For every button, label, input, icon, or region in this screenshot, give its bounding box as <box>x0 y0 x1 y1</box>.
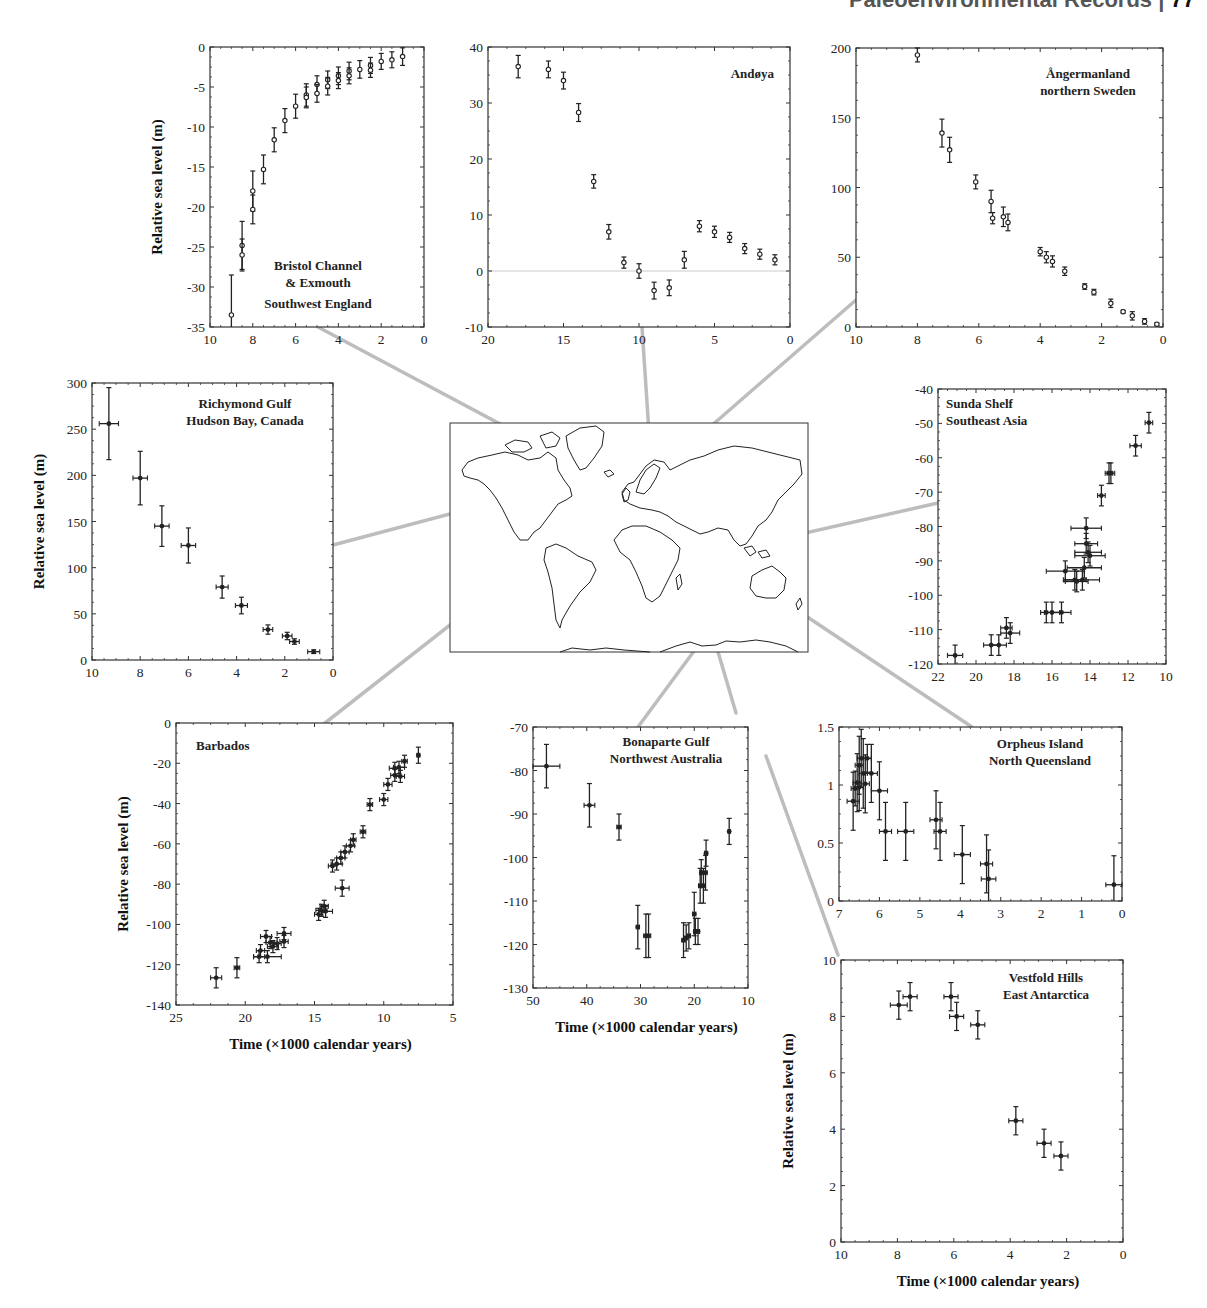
y-tick-label: -110 <box>504 894 528 909</box>
plot-frame <box>841 960 1123 1242</box>
y-tick-label: 0 <box>844 320 851 335</box>
x-tick-label: 4 <box>233 665 240 680</box>
y-tick-label: 50 <box>838 250 852 265</box>
y-tick-label: -90 <box>915 554 933 569</box>
x-axis-title: Time (×1000 calendar years) <box>229 1036 412 1053</box>
x-tick-label: 12 <box>1121 669 1135 684</box>
y-tick-label: -15 <box>187 160 205 175</box>
x-tick-label: 10 <box>377 1010 391 1025</box>
chart-andoya: 20151050403020100-10Andøya <box>465 40 794 347</box>
plot-frame <box>488 47 790 327</box>
y-tick-label: 10 <box>823 953 837 968</box>
y-tick-label: 150 <box>67 515 88 530</box>
y-tick-label: 0 <box>827 894 834 909</box>
chart-bonaparte: 5040302010-70-80-90-100-110-120-130Time … <box>503 720 755 1036</box>
panel-title-line: Hudson Bay, Canada <box>186 413 304 428</box>
x-tick-label: 25 <box>169 1010 183 1025</box>
x-tick-label: 50 <box>526 993 540 1008</box>
panel-title-line: northern Sweden <box>1040 83 1136 98</box>
x-tick-label: 20 <box>239 1010 253 1025</box>
panel-title-line: Ångermanland <box>1046 66 1131 81</box>
y-tick-label: 0 <box>198 40 205 55</box>
y-tick-label: -130 <box>503 981 528 996</box>
x-tick-label: 15 <box>308 1010 322 1025</box>
y-tick-label: -25 <box>187 240 205 255</box>
x-tick-label: 2 <box>1038 906 1045 921</box>
x-tick-label: 6 <box>876 906 883 921</box>
panel-title-line: East Antarctica <box>1003 987 1090 1002</box>
x-tick-label: 6 <box>185 665 192 680</box>
x-tick-label: 10 <box>1159 669 1173 684</box>
y-tick-label: -100 <box>503 851 528 866</box>
y-tick-label: -60 <box>153 837 171 852</box>
panel-title-line: & Exmouth <box>285 275 351 290</box>
figure-canvas: 10864200-5-10-15-20-25-30-35Relative sea… <box>0 0 1207 1308</box>
y-tick-label: 0.5 <box>817 836 834 851</box>
x-tick-label: 0 <box>330 665 337 680</box>
y-tick-label: -120 <box>503 938 528 953</box>
y-tick-label: -20 <box>187 200 205 215</box>
data-point <box>1142 319 1147 325</box>
y-tick-label: 300 <box>67 376 88 391</box>
y-tick-label: -90 <box>510 807 528 822</box>
data-point <box>1154 322 1159 326</box>
x-tick-label: 0 <box>1120 1247 1127 1262</box>
panel-title-line: Andøya <box>731 66 775 81</box>
y-tick-label: 2 <box>829 1179 836 1194</box>
x-tick-label: 20 <box>688 993 702 1008</box>
y-tick-label: -30 <box>187 280 205 295</box>
y-tick-label: 1 <box>827 778 834 793</box>
chart-angermanland: 1086420200150100500Ångermanlandnorthern … <box>831 41 1167 347</box>
x-tick-label: 0 <box>787 332 794 347</box>
x-tick-label: 15 <box>557 332 571 347</box>
y-tick-label: 200 <box>831 41 852 56</box>
x-tick-label: 10 <box>741 993 755 1008</box>
chart-richmond: 1086420300250200150100500Relative sea le… <box>31 376 337 680</box>
y-axis-title: Relative sea level (m) <box>31 454 48 589</box>
y-tick-label: -120 <box>908 657 933 672</box>
y-tick-label: 40 <box>470 40 484 55</box>
x-tick-label: 5 <box>450 1010 457 1025</box>
x-tick-label: 6 <box>292 332 299 347</box>
world-map <box>450 423 808 652</box>
panel-title-line: Bristol Channel <box>274 258 362 273</box>
x-tick-label: 8 <box>894 1247 901 1262</box>
x-tick-label: 10 <box>632 332 646 347</box>
plot-frame <box>176 723 453 1005</box>
y-tick-label: -120 <box>146 958 171 973</box>
chart-orpheus: 765432101.510.50Orpheus IslandNorth Quee… <box>817 720 1126 921</box>
panel-title-line: Southeast Asia <box>946 413 1028 428</box>
x-tick-label: 2 <box>1098 332 1105 347</box>
panel-title-line: Bonaparte Gulf <box>622 734 710 749</box>
data-point <box>1121 309 1126 313</box>
x-tick-label: 20 <box>481 332 495 347</box>
panel-title-line: Barbados <box>196 738 249 753</box>
y-tick-label: 0 <box>164 716 171 731</box>
x-tick-label: 10 <box>85 665 99 680</box>
y-tick-label: 10 <box>470 208 484 223</box>
panel-title-line: Sunda Shelf <box>946 396 1014 411</box>
y-tick-label: -110 <box>909 623 933 638</box>
y-tick-label: 20 <box>470 152 484 167</box>
y-tick-label: -80 <box>510 764 528 779</box>
x-tick-label: 8 <box>914 332 921 347</box>
panel-title-line: Northwest Australia <box>610 751 723 766</box>
data-point <box>1091 289 1096 295</box>
chart-bristol: 10864200-5-10-15-20-25-30-35Relative sea… <box>149 40 428 347</box>
map-frame <box>450 423 808 652</box>
x-tick-label: 20 <box>969 669 983 684</box>
x-tick-label: 2 <box>378 332 385 347</box>
x-tick-label: 4 <box>957 906 964 921</box>
x-tick-label: 18 <box>1007 669 1021 684</box>
x-tick-label: 4 <box>1037 332 1044 347</box>
y-tick-label: 0 <box>829 1235 836 1250</box>
y-tick-label: 250 <box>67 422 88 437</box>
x-tick-label: 5 <box>711 332 718 347</box>
panel-title: Barbados <box>196 738 249 753</box>
y-tick-label: -100 <box>146 917 171 932</box>
y-axis-title: Relative sea level (m) <box>780 1033 797 1168</box>
y-tick-label: -40 <box>915 382 933 397</box>
bonaparte-antarctic-connector <box>716 645 736 713</box>
y-tick-label: -5 <box>194 80 205 95</box>
x-tick-label: 3 <box>997 906 1004 921</box>
